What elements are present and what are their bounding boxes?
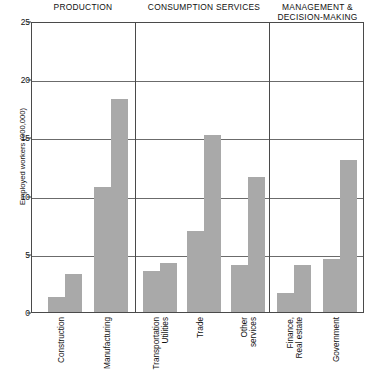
bar-government-later [340,160,357,313]
bar-transportation-utilities-earlier [143,271,160,312]
x-label-construction: Construction [58,317,67,363]
bar-transportation-utilities-later [160,263,177,312]
group-separator-1 [135,23,136,312]
gridline-15 [32,139,363,140]
group-header-band: PRODUCTION CONSUMPTION SERVICES MANAGEME… [31,0,364,22]
bar-other-services-earlier [231,265,248,312]
group-header-consumption-services: CONSUMPTION SERVICES [139,2,269,12]
bar-manufacturing-later [111,99,128,312]
x-label-finance-real-estate: Finance, Real estate [287,317,304,358]
bar-finance-real-estate-later [294,265,311,312]
x-label-trade: Trade [197,317,206,338]
bar-construction-earlier [48,297,65,312]
bar-trade-later [204,135,221,312]
chart-figure: PRODUCTION CONSUMPTION SERVICES MANAGEME… [0,0,368,385]
bar-other-services-later [248,177,265,312]
bar-construction-later [65,274,82,312]
gridline-20 [32,81,363,82]
y-axis: 0 5 10 15 20 25 [0,0,30,385]
gridline-10 [32,198,363,199]
plot-area [31,22,364,313]
x-label-manufacturing: Manufacturing [104,317,113,369]
group-header-production: PRODUCTION [31,2,135,12]
x-label-other-services: Other services [241,317,258,347]
bar-finance-real-estate-earlier [277,293,294,312]
x-axis-labels: Construction Manufacturing Transportatio… [31,313,364,385]
x-label-transportation-utilities: Transportation Utilities [153,317,170,370]
bar-manufacturing-earlier [94,187,111,312]
x-label-government: Government [333,317,342,362]
bar-trade-earlier [187,231,204,313]
group-separator-2 [269,23,270,312]
bar-government-earlier [323,259,340,313]
group-header-management-decision-making: MANAGEMENT & DECISION-MAKING [271,2,364,22]
